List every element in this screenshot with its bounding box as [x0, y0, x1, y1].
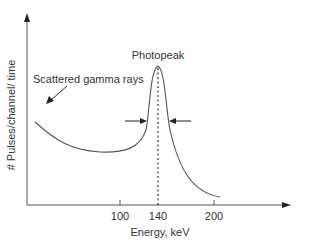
y-axis-label: # Pulses/channel/ time — [5, 60, 17, 171]
scattered-arrow-icon — [46, 96, 54, 104]
scattered-label: Scattered gamma rays — [33, 73, 144, 85]
spectrum-diagram: 100 140 200 Energy, keV # Pulses/channel… — [0, 0, 318, 240]
fwhm-right-arrow-icon — [169, 118, 176, 124]
tick-label-200: 200 — [205, 210, 223, 222]
scattered-arrow-line — [51, 86, 67, 100]
fwhm-left-arrow-icon — [140, 118, 147, 124]
spectrum-curve — [35, 66, 220, 197]
x-axis-label: Energy, keV — [130, 226, 190, 238]
photopeak-label: Photopeak — [132, 49, 185, 61]
y-axis-arrow-icon — [24, 13, 30, 22]
x-axis-arrow-icon — [282, 202, 291, 208]
tick-label-100: 100 — [111, 210, 129, 222]
tick-label-140: 140 — [149, 210, 167, 222]
